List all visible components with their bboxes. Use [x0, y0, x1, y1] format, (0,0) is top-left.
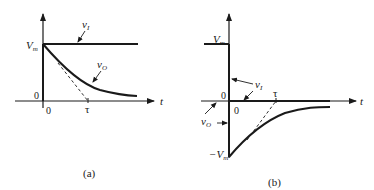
- neg-vm-label: −Vm: [209, 148, 228, 162]
- vi-pointer-arrow-up: [232, 79, 253, 84]
- vm-label: Vm: [213, 33, 225, 47]
- t-axis-label: t: [360, 95, 364, 107]
- tau-label: τ: [273, 87, 278, 99]
- output-waveform-vo: [43, 44, 137, 96]
- panel-b: Vm −Vm 0 0 τ t vI vO (b): [201, 14, 364, 189]
- vi-pointer-arrow-down: [244, 91, 253, 100]
- vo-label: vO: [201, 115, 211, 129]
- vo-pointer-arrow: [93, 71, 101, 82]
- vm-label: Vm: [26, 39, 38, 53]
- caption-a: (a): [83, 167, 96, 180]
- origin-y-label: 0: [221, 90, 226, 101]
- origin-x-label: 0: [234, 105, 239, 116]
- vi-pointer-arrow: [78, 31, 85, 42]
- vi-label: vI: [82, 18, 90, 32]
- vo-pointer-arrow-up: [205, 103, 216, 114]
- output-waveform-vo: [229, 107, 330, 157]
- vo-label: vO: [97, 58, 107, 72]
- panel-a: Vm 0 0 τ t vI vO (a): [15, 14, 164, 180]
- origin-y-label: 0: [34, 90, 39, 101]
- diagram-canvas: Vm 0 0 τ t vI vO (a) Vm −Vm 0 0 τ t vI: [0, 0, 374, 190]
- origin-x-label: 0: [46, 105, 51, 116]
- tau-label: τ: [85, 103, 90, 115]
- t-axis-label: t: [160, 95, 164, 107]
- vi-label: vI: [255, 78, 263, 92]
- caption-b: (b): [268, 176, 281, 189]
